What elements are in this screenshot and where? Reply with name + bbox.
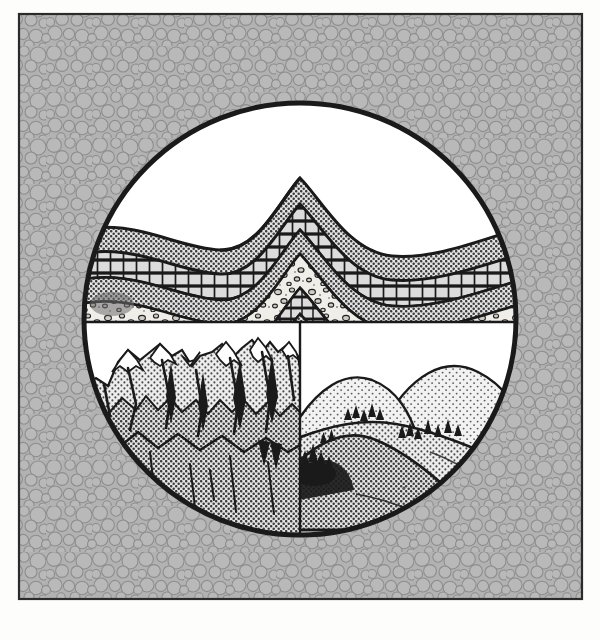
tonal-smudge [90,292,134,316]
illustration-stage: Geological cross-section and landscape e… [0,0,600,640]
texture-dot [402,486,405,489]
geology-figure: Geological cross-section and landscape e… [0,0,600,640]
